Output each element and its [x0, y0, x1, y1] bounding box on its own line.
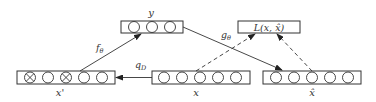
- x-corrupted-layer: x': [17, 71, 115, 98]
- q-d-edge: qD: [116, 59, 152, 78]
- y-label: y: [147, 7, 154, 18]
- loss-label: L(x, x̂): [253, 22, 285, 33]
- g-theta-label: gθ: [221, 29, 231, 42]
- x-input-layer: x: [152, 71, 250, 98]
- f-theta-label: fθ: [95, 42, 104, 55]
- autoencoder-diagram: y L(x, x̂) x' x: [0, 0, 376, 102]
- q-d-label: qD: [135, 59, 147, 72]
- x-label: x: [193, 87, 199, 98]
- f-theta-edge: fθ: [80, 34, 141, 71]
- y-layer: y: [121, 7, 183, 33]
- x-hat-label: x̂: [309, 87, 315, 98]
- crossed-circle-icon: [61, 72, 72, 83]
- loss-box: L(x, x̂): [238, 21, 300, 33]
- x-corrupted-label: x': [56, 87, 64, 98]
- crossed-circle-icon: [25, 72, 36, 83]
- x-hat-to-loss-edge: [277, 34, 312, 71]
- x-hat-layer: x̂: [263, 71, 361, 98]
